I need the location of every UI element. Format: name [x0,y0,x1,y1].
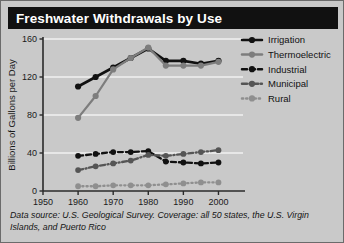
y-axis-tick-label: 40 [27,148,37,158]
data-point [198,180,204,186]
chart-title-bar: Freshwater Withdrawals by Use [8,7,338,29]
data-point [75,153,81,159]
data-source-text: Data source: U.S. Geological Survey. Cov… [10,210,330,233]
data-point [93,151,99,157]
data-point [215,59,221,65]
data-point [75,115,81,121]
data-point [110,182,116,188]
plot-area: 04080120160195019601970198019902000Billi… [1,29,344,207]
data-point [93,93,99,99]
legend-label-rural: Rural [268,93,291,104]
y-axis-tick-label: 120 [22,72,37,82]
legend-swatch-marker [249,81,255,87]
y-axis-tick-label: 0 [32,186,37,196]
y-axis-title: Billions of Gallons per Day [6,59,17,171]
data-point [93,183,99,189]
legend-label-irrigation: Irrigation [268,34,305,45]
data-point [198,149,204,155]
x-axis-tick-label: 1970 [103,197,123,207]
legend-swatch-marker [249,66,255,72]
chart-card: Freshwater Withdrawals by Use 0408012016… [0,0,344,243]
legend-label-industrial: Industrial [268,64,307,75]
data-point [110,66,116,72]
series-line-irrigation [78,49,218,87]
data-point [163,159,169,165]
data-point [216,147,222,153]
data-point [216,180,222,186]
data-point [128,182,134,188]
x-axis-tick-label: 2000 [208,197,228,207]
data-point [198,161,204,167]
data-point [145,182,151,188]
data-point [93,163,99,169]
line-chart-svg: 04080120160195019601970198019902000Billi… [1,29,344,207]
data-point [180,151,186,157]
data-point [163,63,169,69]
x-axis-tick-label: 1980 [138,197,158,207]
data-point [75,167,81,173]
series-line-thermoelectric [78,48,218,118]
x-axis-tick-label: 1960 [68,197,88,207]
data-point [110,149,116,155]
data-point [180,181,186,187]
y-axis-tick-label: 80 [27,110,37,120]
x-axis-tick-label: 1990 [173,197,193,207]
data-point [110,161,116,167]
legend-swatch-marker [249,52,255,58]
data-point [145,44,151,50]
data-point [75,183,81,189]
data-point [128,149,134,155]
chart-footnote: Data source: U.S. Geological Survey. Cov… [10,210,330,233]
page-title: Freshwater Withdrawals by Use [8,11,222,26]
data-point [163,153,169,159]
x-axis-tick-label: 1950 [33,197,53,207]
data-point [75,83,81,89]
data-point [128,158,134,164]
data-point [216,160,222,166]
data-point [93,74,99,80]
data-point [180,160,186,166]
data-point [163,181,169,187]
data-point [128,55,134,61]
legend-label-municipal: Municipal [268,78,308,89]
legend-swatch-marker [249,95,255,101]
legend-swatch-marker [249,37,255,43]
data-point [198,63,204,69]
legend-label-thermoelectric: Thermoelectric [268,49,331,60]
data-point [145,152,151,158]
data-point [180,63,186,69]
y-axis-tick-label: 160 [22,34,37,44]
